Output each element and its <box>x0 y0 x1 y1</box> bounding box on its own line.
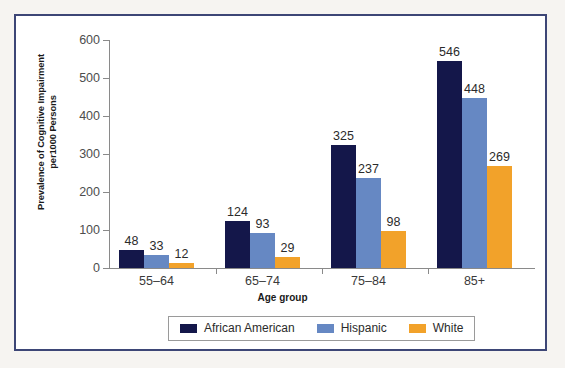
bar[interactable] <box>169 263 194 268</box>
bar-column: 325 <box>331 40 356 268</box>
bar-column: 237 <box>356 40 381 268</box>
bar-column: 29 <box>275 40 300 268</box>
legend-item[interactable]: African American <box>180 321 295 335</box>
x-axis-title: Age group <box>16 292 549 303</box>
legend-swatch-icon <box>409 324 426 333</box>
bar-column: 269 <box>487 40 512 268</box>
x-axis-category-label: 75–84 <box>314 274 424 288</box>
bar-column: 33 <box>144 40 169 268</box>
y-axis-tick-label: 500 <box>56 78 100 79</box>
bar-column: 93 <box>250 40 275 268</box>
legend-swatch-icon <box>180 324 197 333</box>
y-axis-title-line-2: per1000 Persons <box>47 37 59 227</box>
bar-value-label: 29 <box>265 242 310 255</box>
bar-column: 98 <box>381 40 406 268</box>
x-axis-category-label: 55–64 <box>102 274 212 288</box>
bar-group-bars: 546448269 <box>437 40 512 268</box>
y-axis-tick-label: 300 <box>56 154 100 155</box>
bar-group-bars: 32523798 <box>331 40 406 268</box>
legend-label: White <box>433 321 464 335</box>
bar[interactable] <box>381 231 406 268</box>
legend-swatch-icon <box>317 324 334 333</box>
bar[interactable] <box>462 98 487 268</box>
y-axis-tick-label: 600 <box>56 40 100 41</box>
x-axis-category-label: 65–74 <box>208 274 318 288</box>
plot-area: 483312124932932523798546448269 <box>110 40 534 268</box>
x-axis-category-label: 85+ <box>420 274 530 288</box>
bar-column: 124 <box>225 40 250 268</box>
legend-item[interactable]: Hispanic <box>317 321 387 335</box>
bar[interactable] <box>487 166 512 268</box>
bar-value-label: 269 <box>477 151 522 164</box>
y-axis-tick-label: 400 <box>56 116 100 117</box>
legend-item[interactable]: White <box>409 321 464 335</box>
y-axis-tick-label: 200 <box>56 192 100 193</box>
bar-value-label: 12 <box>159 248 204 261</box>
bar-column: 48 <box>119 40 144 268</box>
bar-value-label: 98 <box>371 216 416 229</box>
chart-legend: African AmericanHispanicWhite <box>168 316 475 341</box>
legend-label: African American <box>204 321 295 335</box>
bar[interactable] <box>275 257 300 268</box>
chart-page: Prevalence of Cognitive Impairment per10… <box>0 0 565 368</box>
y-axis-title-line-1: Prevalence of Cognitive Impairment <box>35 37 47 227</box>
y-axis-tick-label: 0 <box>56 268 100 269</box>
bar-column: 12 <box>169 40 194 268</box>
bar-group-bars: 1249329 <box>225 40 300 268</box>
legend-label: Hispanic <box>341 321 387 335</box>
bar-group-bars: 483312 <box>119 40 194 268</box>
y-axis-tick-label: 100 <box>56 230 100 231</box>
bar-column: 546 <box>437 40 462 268</box>
y-axis-title: Prevalence of Cognitive Impairment per10… <box>35 37 59 227</box>
chart-frame: Prevalence of Cognitive Impairment per10… <box>14 14 547 351</box>
